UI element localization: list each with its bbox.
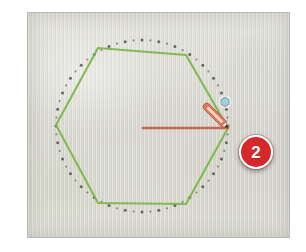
dotted-circle <box>55 39 230 214</box>
hexagon-shape <box>56 48 228 204</box>
drawing-canvas <box>28 13 289 237</box>
step-badge-label: 2 <box>251 143 260 160</box>
page-background: 2 <box>0 0 306 252</box>
instruction-photo <box>28 13 289 237</box>
inference-point-icon <box>218 95 231 108</box>
step-badge: 2 <box>239 135 273 169</box>
